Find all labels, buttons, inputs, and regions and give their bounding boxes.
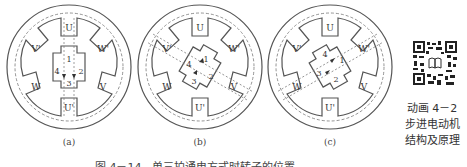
- figure-caption: 图 4－14 单三拍通电方式时转子的位置: [95, 158, 296, 167]
- pole-label-v: V: [360, 82, 368, 92]
- rotor-tooth-1: 1: [203, 55, 208, 64]
- rotor-tooth-2: 2: [78, 67, 83, 76]
- pole-label-u: U: [326, 23, 334, 33]
- pole-label-u-prime: U': [195, 103, 205, 113]
- rotor-tooth-4: 4: [54, 67, 59, 76]
- pole-label-v: V: [230, 82, 238, 92]
- motor-diagram-c: U W' V U' W V' 1 2 3 4: [263, 0, 397, 134]
- pole-label-w: W: [162, 82, 172, 92]
- pole-label-w: W: [31, 82, 41, 92]
- qr-caption-title: 动画 4－2: [396, 101, 467, 117]
- pole-label-u: U: [65, 23, 73, 33]
- rotor-tooth-3: 3: [191, 77, 196, 86]
- pole-label-v-prime: V': [292, 44, 302, 54]
- qr-caption-line2: 步进电动机: [396, 117, 467, 133]
- rotor-tooth-3: 3: [66, 79, 71, 88]
- panel-label-b: (b): [180, 137, 220, 147]
- book-icon: [427, 55, 443, 71]
- rotor-tooth-4: 4: [322, 50, 327, 59]
- pole-label-u-prime: U': [64, 103, 74, 113]
- pole-label-u: U: [196, 23, 204, 33]
- rotor-tooth-2: 2: [333, 75, 338, 84]
- rotor-tooth-3: 3: [316, 69, 321, 78]
- motor-diagram-b: U W' V U' W V' 1 2 3 4: [133, 0, 267, 134]
- pole-label-v-prime: V': [31, 44, 41, 54]
- qr-code-icon[interactable]: [413, 41, 457, 85]
- pole-label-v-prime: V': [162, 44, 172, 54]
- pole-label-u-prime: U': [325, 103, 335, 113]
- pole-label-w-prime: W': [97, 44, 109, 54]
- panel-label-c: (c): [310, 137, 350, 147]
- pole-label-w: W: [292, 82, 302, 92]
- motor-diagram-a: U W' V U' W V' 1 2 3 4: [2, 0, 136, 134]
- rotor-tooth-1: 1: [66, 55, 71, 64]
- pole-label-w-prime: W': [358, 44, 370, 54]
- rotor-tooth-1: 1: [339, 56, 344, 65]
- qr-caption-line3: 结构及原理: [396, 133, 467, 149]
- pole-label-v: V: [99, 82, 107, 92]
- pole-label-w-prime: W': [228, 44, 240, 54]
- rotor-tooth-2: 2: [208, 72, 213, 81]
- rotor-tooth-4: 4: [186, 60, 191, 69]
- panel-label-a: (a): [49, 137, 89, 147]
